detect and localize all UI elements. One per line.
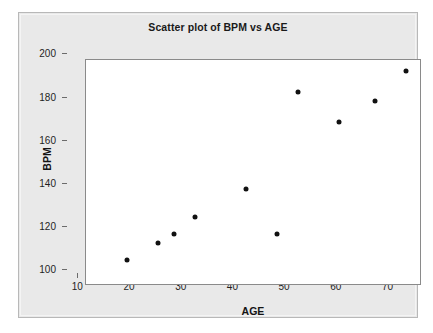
y-tick-mark xyxy=(62,53,67,54)
data-point xyxy=(156,240,161,245)
y-tick-mark xyxy=(62,183,67,184)
data-point xyxy=(192,215,197,220)
x-tick-mark xyxy=(77,273,78,278)
data-point xyxy=(295,90,300,95)
data-point xyxy=(171,232,176,237)
data-point xyxy=(404,68,409,73)
chart-title: Scatter plot of BPM vs AGE xyxy=(19,21,417,33)
x-tick-label: 10 xyxy=(72,281,83,292)
y-tick-label: 180 xyxy=(39,91,56,102)
y-tick-label: 200 xyxy=(39,48,56,59)
y-tick-label: 100 xyxy=(39,263,56,274)
data-point xyxy=(275,232,280,237)
scatter-plot-figure: Scatter plot of BPM vs AGE BPM AGE 10012… xyxy=(0,0,433,333)
y-tick-label: 160 xyxy=(39,134,56,145)
plot-frame xyxy=(85,59,421,285)
y-tick-mark xyxy=(62,226,67,227)
plot-data-area xyxy=(86,60,420,284)
y-tick-mark xyxy=(62,97,67,98)
y-tick-mark xyxy=(62,269,67,270)
data-point xyxy=(125,258,130,263)
y-tick-label: 120 xyxy=(39,220,56,231)
chart-panel: Scatter plot of BPM vs AGE BPM AGE 10012… xyxy=(18,12,418,318)
y-tick-label: 140 xyxy=(39,177,56,188)
y-tick-mark xyxy=(62,140,67,141)
data-point xyxy=(244,187,249,192)
x-axis-title: AGE xyxy=(85,305,421,317)
y-axis-title: BPM xyxy=(41,147,53,170)
data-point xyxy=(337,120,342,125)
data-point xyxy=(373,98,378,103)
